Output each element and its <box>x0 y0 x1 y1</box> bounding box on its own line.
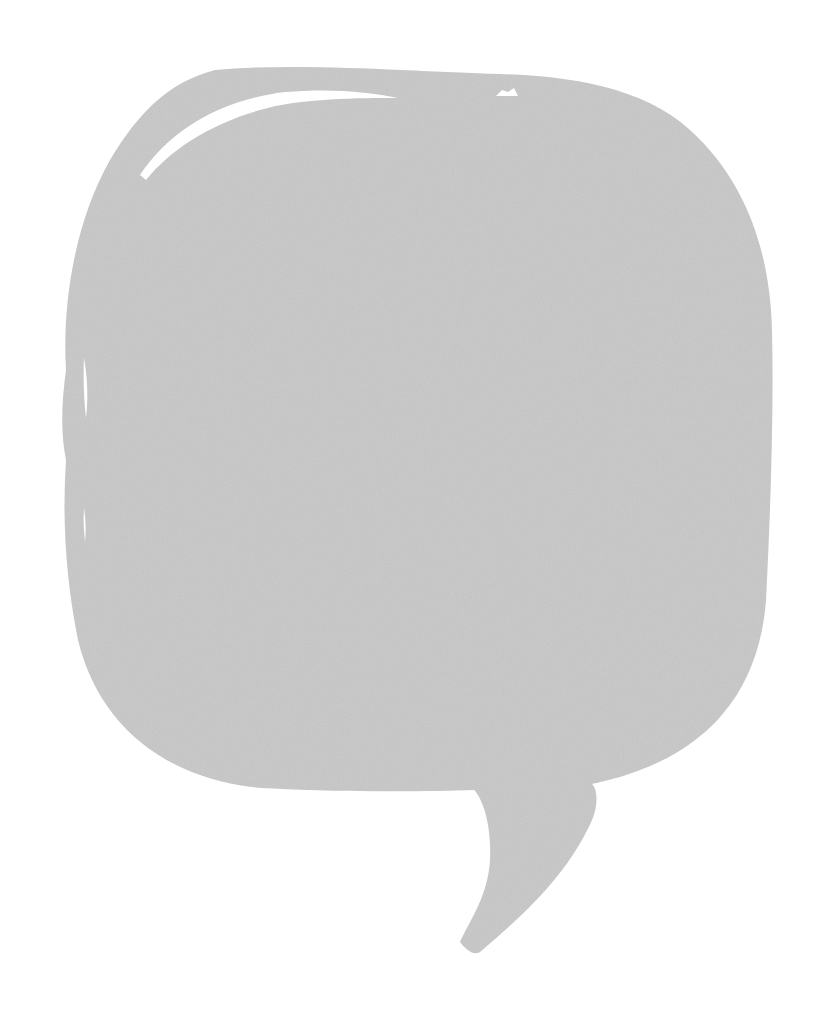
speech-bubble-illustration <box>0 0 825 1036</box>
speech-bubble-icon <box>0 0 825 1036</box>
bubble-shape <box>62 67 772 953</box>
